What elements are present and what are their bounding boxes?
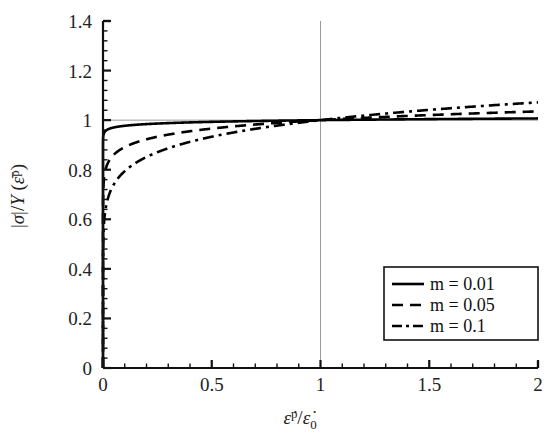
legend-box: m = 0.01m = 0.05m = 0.1: [384, 267, 538, 340]
svg-text:|σ|/Y (ε̄p): |σ|/Y (ε̄p): [7, 164, 29, 228]
chart-plot: 00.511.52 00.20.40.60.811.21.4 m = 0.01m…: [0, 0, 549, 443]
y-tick-label: 0.2: [68, 308, 92, 329]
x-tick-labels-group: 00.511.52: [98, 374, 543, 395]
x-tick-label: 0.5: [200, 374, 224, 395]
y-tick-label: 1.2: [68, 61, 92, 82]
x-tick-label: 0: [98, 374, 108, 395]
x-tick-label: 1.5: [417, 374, 441, 395]
y-tick-labels-group: 00.20.40.60.811.21.4: [68, 11, 92, 379]
y-tick-label: 0.6: [68, 209, 92, 230]
y-tick-label: 1.4: [68, 11, 92, 32]
y-tick-label: 1: [83, 110, 93, 131]
y-tick-label: 0.8: [68, 160, 92, 181]
y-tick-label: 0.4: [68, 259, 92, 280]
legend-label-1: m = 0.05: [430, 295, 495, 315]
legend-label-2: m = 0.1: [430, 316, 486, 336]
y-axis-title: |σ|/Y (ε̄p): [7, 164, 29, 228]
y-tick-label: 0: [83, 358, 93, 379]
svg-text:ε̇p/ε̇0: ε̇p/ε̇0: [283, 406, 316, 432]
x-axis-title: ε̇p/ε̇0: [283, 406, 316, 432]
figure-container: 00.511.52 00.20.40.60.811.21.4 m = 0.01m…: [0, 0, 549, 443]
x-tick-label: 1: [316, 374, 326, 395]
x-tick-label: 2: [533, 374, 543, 395]
legend-label-0: m = 0.01: [430, 274, 495, 294]
